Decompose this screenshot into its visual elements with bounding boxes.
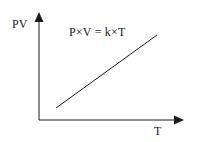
equation-annotation: P×V = k×T: [69, 26, 126, 38]
y-axis-arrow-icon: [35, 12, 44, 22]
pv-t-chart: PV T P×V = k×T: [0, 0, 197, 142]
y-axis-label: PV: [12, 18, 27, 30]
x-axis-arrow-icon: [174, 116, 184, 125]
pv-t-line: [56, 35, 157, 108]
chart-canvas: [0, 0, 197, 142]
x-axis-label: T: [154, 125, 161, 137]
